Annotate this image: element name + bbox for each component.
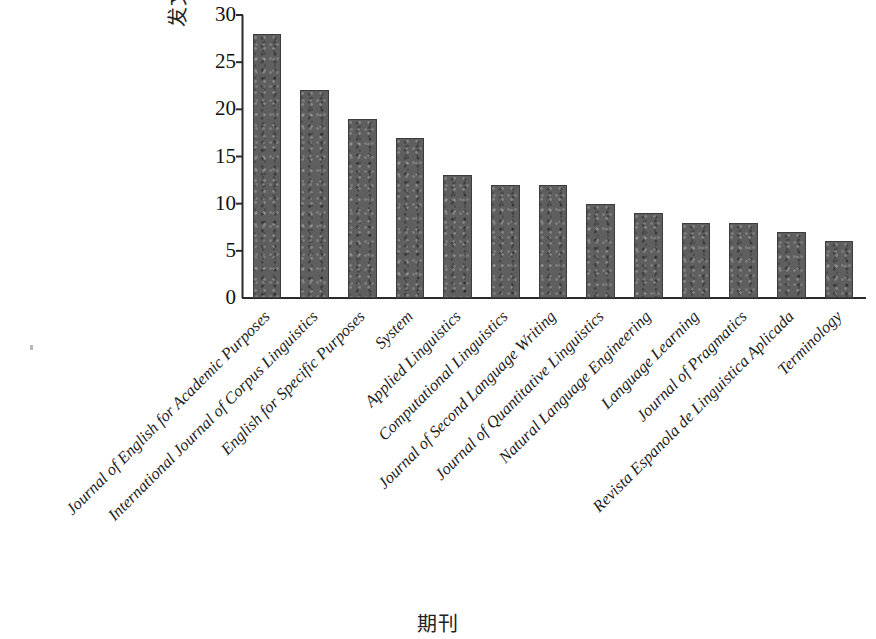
bar-chart-figure: 发文量/篇 051015202530 Journal of English fo…	[0, 0, 876, 639]
x-axis-tick-labels: Journal of English for Academic Purposes…	[0, 0, 876, 639]
x-axis-title: 期刊	[0, 608, 876, 637]
